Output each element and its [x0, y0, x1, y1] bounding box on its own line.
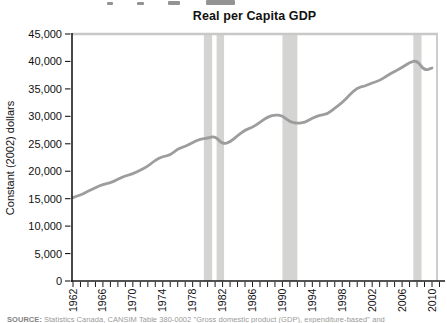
y-tick-label: 15,000 [28, 193, 62, 205]
source-note-text: Statistics Canada, CANSIM Table 380-0002… [44, 315, 385, 323]
y-tick-labels: 05,00010,00015,00020,00025,00030,00035,0… [28, 28, 70, 287]
x-tick-label: 1994 [306, 288, 318, 312]
y-tick-label: 40,000 [28, 55, 62, 67]
x-tick-labels: 1962196619701974197819821986199019941998… [67, 288, 438, 312]
y-tick-label: 35,000 [28, 83, 62, 95]
y-tick-label: 20,000 [28, 165, 62, 177]
x-tick-label: 1986 [246, 288, 258, 312]
recession-band [282, 35, 297, 281]
x-tick-label: 1962 [67, 288, 79, 312]
x-tick-label: 1974 [156, 288, 168, 312]
figure-real-per-capita-gdp: Real per Capita GDP Constant (2002) doll… [0, 0, 447, 323]
recession-band [413, 35, 421, 281]
x-tick-label: 1990 [276, 288, 288, 312]
x-tick-label: 1998 [336, 288, 348, 312]
x-tick-label: 1978 [186, 288, 198, 312]
recession-band [204, 35, 212, 281]
recession-bands [204, 35, 422, 281]
x-tick-label: 1982 [216, 288, 228, 312]
y-tick-label: 25,000 [28, 138, 62, 150]
x-tick-label: 2006 [396, 288, 408, 312]
y-tick-label: 10,000 [28, 220, 62, 232]
y-tick-label: 5,000 [34, 248, 62, 260]
source-note: SOURCE:Statistics Canada, CANSIM Table 3… [7, 315, 443, 323]
source-note-label: SOURCE: [7, 315, 42, 323]
x-ticks [73, 282, 439, 287]
recession-band [217, 35, 224, 281]
gdp-line-chart: 05,00010,00015,00020,00025,00030,00035,0… [0, 0, 447, 323]
y-tick-label: 30,000 [28, 110, 62, 122]
y-tick-label: 0 [56, 275, 62, 287]
x-tick-label: 2010 [426, 288, 438, 312]
y-tick-label: 45,000 [28, 28, 62, 40]
x-tick-label: 2002 [366, 288, 378, 312]
x-tick-label: 1970 [126, 288, 138, 312]
x-tick-label: 1966 [96, 288, 108, 312]
gdp-line-series [73, 61, 432, 197]
